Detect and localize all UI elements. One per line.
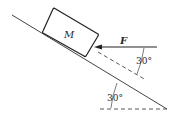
force-arrowhead-icon (94, 45, 102, 50)
force-label: F (119, 35, 128, 46)
upper-angle-label: 30° (136, 56, 152, 66)
incline-diagram: M F 30° 30° (0, 0, 177, 118)
lower-angle-label: 30° (107, 93, 123, 103)
block-label: M (63, 29, 75, 40)
